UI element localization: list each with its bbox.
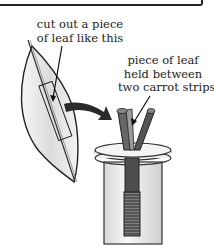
label-line: held between bbox=[118, 68, 208, 82]
label-line: cut out a piece bbox=[30, 18, 130, 32]
label-cut-leaf: cut out a piece of leaf like this bbox=[30, 18, 130, 45]
coiled-wire bbox=[124, 192, 140, 236]
label-leaf-held: piece of leaf held between two carrot st… bbox=[118, 54, 208, 95]
label-line: of leaf like this bbox=[30, 32, 130, 46]
label-line: piece of leaf bbox=[118, 54, 208, 68]
label-line: two carrot strips bbox=[118, 81, 208, 95]
